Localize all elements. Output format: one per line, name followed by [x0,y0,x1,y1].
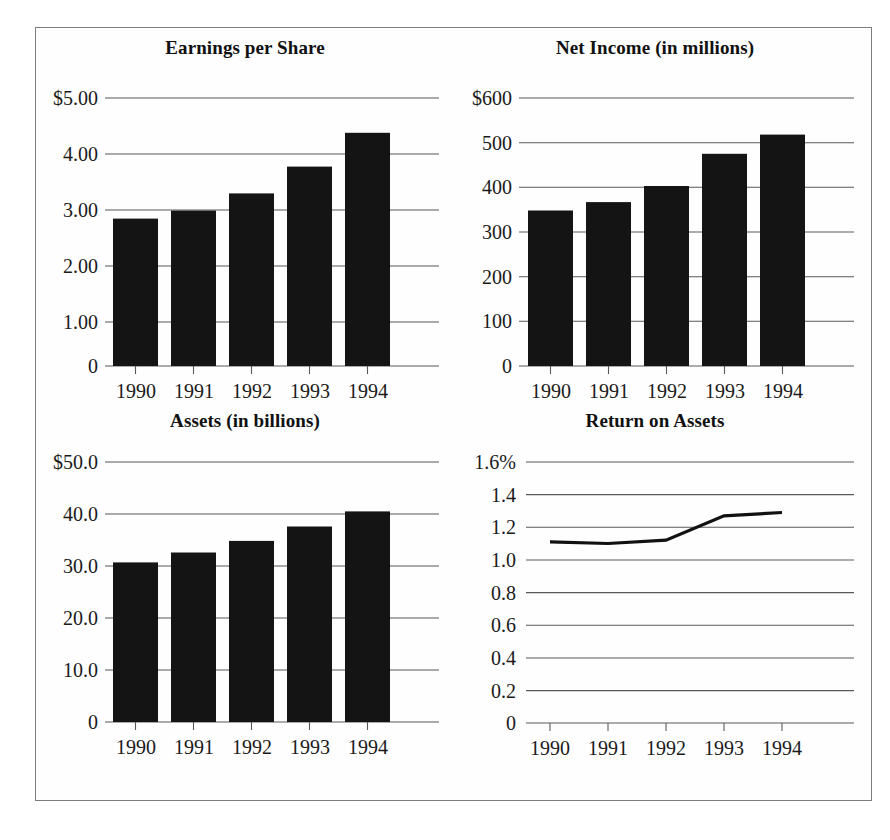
chart-return-on-assets [454,410,872,775]
ytick-label-1-4: 1.4 [446,485,516,505]
ytick-label-1: 1.00 [26,312,98,332]
xtick-label-1994: 1994 [325,737,411,757]
ytick-label-0-8: 0.8 [446,583,516,603]
ytick-label-20: 20.0 [26,608,98,628]
bar-1994 [345,133,390,366]
ytick-label-600: $600 [442,88,512,108]
ytick-label-1-6: 1.6% [446,452,516,472]
ytick-label-0: 0 [26,712,98,732]
xtick-label-1994: 1994 [325,381,411,401]
bar-1990 [113,219,158,366]
bar-1994 [345,511,390,722]
ytick-label-4: 4.00 [26,144,98,164]
ytick-label-500: 500 [442,133,512,153]
ytick-label-30: 30.0 [26,556,98,576]
bar-1992 [229,541,274,722]
bar-1993 [702,154,747,366]
ytick-label-1-0: 1.0 [446,550,516,570]
ytick-label-100: 100 [442,311,512,331]
bar-1991 [171,553,216,723]
chart-assets [36,410,454,775]
ytick-label-50: $50.0 [26,452,98,472]
ytick-label-400: 400 [442,177,512,197]
ytick-label-200: 200 [442,267,512,287]
ytick-label-0: 0 [26,356,98,376]
panel-return-on-assets: Return on Assets 1.6% 1.4 1.2 1.0 0.8 0.… [454,410,872,775]
series-return-on-assets [550,513,782,544]
bar-1991 [586,202,631,366]
ytick-label-0: 0 [446,713,516,733]
bar-1992 [229,193,274,366]
ytick-label-40: 40.0 [26,504,98,524]
bar-1990 [528,211,573,367]
panel-assets: Assets (in billions) $50.0 40.0 30.0 20.… [36,410,454,775]
panel-earnings-per-share: Earnings per Share $5.00 4.00 [36,37,454,402]
ytick-label-300: 300 [442,222,512,242]
chart-earnings-per-share [36,37,454,402]
bar-1994 [760,135,805,366]
ytick-label-5: $5.00 [26,88,98,108]
xtick-label-1994: 1994 [739,738,825,758]
ytick-label-0-2: 0.2 [446,681,516,701]
ytick-label-0-4: 0.4 [446,648,516,668]
xtick-label-1994: 1994 [740,381,826,401]
bar-1990 [113,562,158,722]
bar-1991 [171,211,216,366]
ytick-label-2: 2.00 [26,256,98,276]
figure-border: Earnings per Share $5.00 4.00 [35,27,872,801]
bar-1993 [287,167,332,366]
bar-1992 [644,186,689,366]
chart-net-income [454,37,872,402]
ytick-label-0-6: 0.6 [446,615,516,635]
ytick-label-10: 10.0 [26,660,98,680]
ytick-label-1-2: 1.2 [446,517,516,537]
panel-net-income: Net Income (in millions) $600 500 400 30… [454,37,872,402]
bar-1993 [287,527,332,723]
ytick-label-0: 0 [442,356,512,376]
ytick-label-3: 3.00 [26,200,98,220]
